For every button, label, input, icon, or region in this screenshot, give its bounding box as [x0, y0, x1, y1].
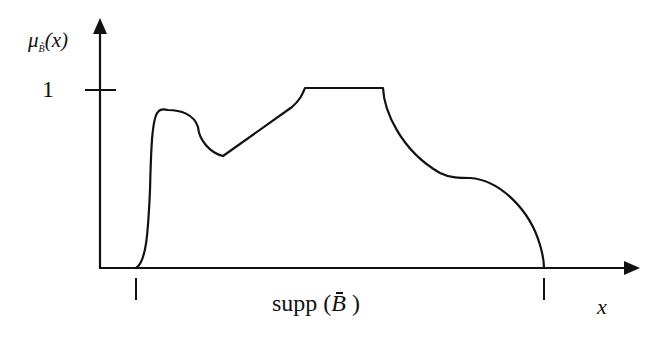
membership-function-diagram: [0, 0, 661, 338]
fuzzy-set-b-tilde: B: [331, 290, 346, 316]
support-suffix: ): [346, 290, 360, 316]
x-axis-label: x: [597, 294, 607, 320]
y-tick-label-one: 1: [42, 76, 54, 103]
mu-symbol: μ: [28, 28, 39, 52]
y-axis-arrow-icon: [93, 18, 107, 34]
y-axis-label: μB̃(x): [28, 28, 68, 54]
membership-curve: [136, 88, 544, 268]
support-prefix: supp (: [272, 290, 331, 316]
x-axis-arrow-icon: [624, 261, 640, 275]
argument-x: (x): [45, 28, 68, 52]
support-label: supp (B ): [272, 290, 360, 317]
